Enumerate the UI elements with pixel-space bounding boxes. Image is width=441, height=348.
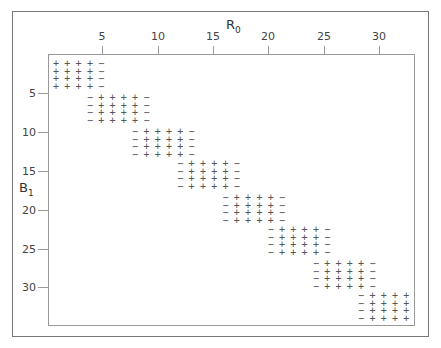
x-tick-label: 25 (317, 30, 331, 43)
minus-cell: − (177, 182, 183, 192)
x-axis-title: R0 (226, 17, 241, 35)
x-tick-mark (102, 46, 103, 54)
y-tick-label: 30 (16, 281, 36, 294)
plus-cell: + (121, 116, 127, 126)
y-tick-label: 20 (16, 204, 36, 217)
y-tick-mark (38, 249, 48, 250)
plus-cell: + (132, 116, 138, 126)
plus-cell: + (222, 182, 228, 192)
minus-cell: − (98, 82, 104, 92)
plus-cell: + (189, 182, 195, 192)
plus-cell: + (166, 150, 172, 160)
plus-cell: + (324, 282, 330, 292)
plus-cell: + (279, 248, 285, 258)
plus-cell: + (76, 82, 82, 92)
y-tick-mark (38, 132, 48, 133)
minus-cell: − (313, 282, 319, 292)
plus-cell: + (403, 314, 409, 324)
plus-cell: + (98, 116, 104, 126)
minus-cell: − (234, 182, 240, 192)
x-axis-title-text: R (226, 17, 235, 32)
x-tick-label: 15 (206, 30, 220, 43)
minus-cell: − (222, 216, 228, 226)
y-tick-mark (38, 93, 48, 94)
plus-cell: + (313, 248, 319, 258)
x-tick-mark (324, 46, 325, 54)
plus-cell: + (143, 150, 149, 160)
plus-cell: + (245, 216, 251, 226)
x-tick-mark (268, 46, 269, 54)
plus-cell: + (290, 248, 296, 258)
plus-cell: + (302, 248, 308, 258)
minus-cell: − (87, 116, 93, 126)
x-tick-label: 20 (261, 30, 275, 43)
y-tick-label: 10 (16, 126, 36, 139)
plus-cell: + (87, 82, 93, 92)
plus-cell: + (381, 314, 387, 324)
x-tick-label: 5 (99, 30, 106, 43)
plus-cell: + (335, 282, 341, 292)
plus-cell: + (109, 116, 115, 126)
y-tick-label: 25 (16, 243, 36, 256)
y-tick-label: 15 (16, 165, 36, 178)
x-tick-label: 10 (151, 30, 165, 43)
y-tick-mark (38, 171, 48, 172)
minus-cell: − (268, 248, 274, 258)
x-tick-mark (379, 46, 380, 54)
y-axis-title-text: B (19, 180, 28, 195)
y-axis-title-subscript: 1 (28, 188, 34, 198)
plus-cell: + (234, 216, 240, 226)
minus-cell: − (132, 150, 138, 160)
y-axis-title: B1 (19, 180, 34, 198)
x-tick-mark (213, 46, 214, 54)
minus-cell: − (324, 248, 330, 258)
minus-cell: − (143, 116, 149, 126)
plus-cell: + (155, 150, 161, 160)
minus-cell: − (358, 314, 364, 324)
plus-cell: + (211, 182, 217, 192)
plus-cell: + (200, 182, 206, 192)
plus-cell: + (64, 82, 70, 92)
x-axis-title-subscript: 0 (235, 25, 241, 35)
y-tick-mark (38, 287, 48, 288)
x-tick-mark (158, 46, 159, 54)
plus-cell: + (392, 314, 398, 324)
x-tick-label: 30 (372, 30, 386, 43)
plus-cell: + (256, 216, 262, 226)
y-tick-label: 5 (16, 87, 36, 100)
plus-cell: + (347, 282, 353, 292)
y-tick-mark (38, 210, 48, 211)
plus-cell: + (369, 314, 375, 324)
plus-cell: + (53, 82, 59, 92)
